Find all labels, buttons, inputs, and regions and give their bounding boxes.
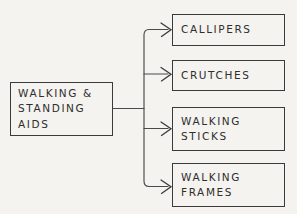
node-label-line: WALKING [181, 113, 241, 129]
node-label-line: CRUTCHES [181, 67, 250, 83]
node-label-line: FRAMES [181, 185, 233, 201]
node-label-line: WALKING & [18, 85, 93, 101]
node-walking-standing-aids[interactable]: WALKING & STANDING AIDS [10, 82, 113, 136]
diagram-canvas: WALKING & STANDING AIDS CALLIPERS CRUTCH… [0, 0, 297, 214]
node-walking-frames[interactable]: WALKING FRAMES [172, 163, 285, 207]
node-crutches[interactable]: CRUTCHES [172, 60, 285, 91]
node-label-line: WALKING [181, 169, 241, 185]
connector-spine [144, 30, 152, 187]
node-callipers[interactable]: CALLIPERS [172, 14, 285, 46]
node-label-line: AIDS [18, 116, 49, 132]
node-walking-sticks[interactable]: WALKING STICKS [172, 107, 285, 151]
node-label-line: STICKS [181, 129, 228, 145]
node-label-line: CALLIPERS [181, 22, 252, 38]
node-label-line: STANDING [18, 101, 85, 117]
